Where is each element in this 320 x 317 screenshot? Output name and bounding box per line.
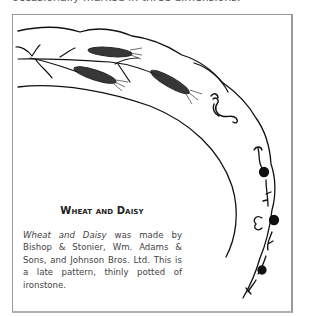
wheat-ears [73,46,202,104]
daisy-sprig [246,147,279,294]
rim-edge-line [194,63,228,92]
wheat-ear-2 [73,63,118,86]
figure-caption: Wheat and Daisy was made by Bishop & Sto… [23,229,182,291]
scroll-ornament [211,94,237,123]
wheat-ear-3 [148,67,191,98]
wheat-ear-1 [88,46,133,59]
figure-heading: Wheat and Daisy [22,205,182,216]
caption-pattern-name: Wheat and Daisy [23,230,107,240]
